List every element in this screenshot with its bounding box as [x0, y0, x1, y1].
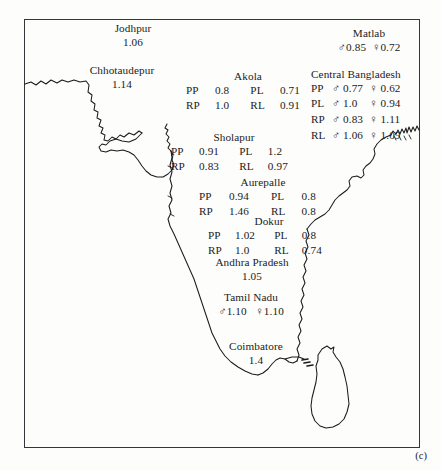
label-jodhpur: Jodhpur 1.06 — [78, 22, 188, 49]
label-chhotaudepur-value: 1.14 — [63, 78, 181, 92]
bangladesh-r3-male: ♂ 0.83 — [332, 113, 364, 127]
label-coimbatore-name: Coimbatore — [197, 340, 315, 354]
matlab-male-value: 0.85 — [346, 41, 366, 53]
sholapur-r2-val2: 0.97 — [268, 160, 297, 174]
label-tamil-nadu: Tamil Nadu ♂1.10 ♀1.10 — [192, 291, 310, 318]
akola-r1-val2: 0.71 — [280, 84, 310, 98]
label-matlab-values: ♂0.85 ♀0.72 — [316, 41, 422, 55]
label-akola-stats: PP 0.8 PL 0.71 RP 1.0 RL 0.91 — [186, 84, 310, 113]
label-coimbatore-value: 1.4 — [197, 354, 315, 368]
akola-r1-val1: 0.8 — [215, 84, 250, 98]
label-akola-name: Akola — [186, 70, 310, 84]
kathiawar-peninsula-outline — [99, 133, 174, 177]
panel-letter: (c) — [415, 450, 427, 461]
aurepalle-r1-val1: 0.94 — [229, 190, 271, 204]
label-andhra-pradesh-name: Andhra Pradesh — [190, 256, 314, 270]
akola-r2-key1: RP — [186, 99, 215, 113]
label-sholapur-stats: PP 0.91 PL 1.2 RP 0.83 RL 0.97 — [171, 145, 297, 174]
label-sholapur: Sholapur PP 0.91 PL 1.2 RP 0.83 RL 0.97 — [171, 131, 297, 174]
bangladesh-r3-female: ♀ 1.11 — [369, 113, 401, 127]
label-jodhpur-value: 1.06 — [78, 36, 188, 50]
label-central-bangladesh-stats: PP ♂ 0.77 ♀ 0.62 PL ♂ 1.0 ♀ 0.94 RP ♂ 0.… — [311, 82, 401, 143]
label-matlab: Matlab ♂0.85 ♀0.72 — [316, 27, 422, 54]
bangladesh-r1-male: ♂ 0.77 — [332, 82, 364, 96]
label-coimbatore: Coimbatore 1.4 — [197, 340, 315, 367]
label-akola: Akola PP 0.8 PL 0.71 RP 1.0 RL 0.91 — [186, 70, 310, 113]
label-dokur-stats: PP 1.02 PL 0.8 RP 1.0 RL 0.74 — [208, 229, 330, 258]
sholapur-r2-key2: RL — [239, 160, 268, 174]
sholapur-r2-val1: 0.83 — [199, 160, 239, 174]
bangladesh-r4-female: ♀ 1.09 — [369, 129, 401, 143]
dokur-r1-key2: PL — [274, 229, 302, 243]
label-tamil-nadu-values: ♂1.10 ♀1.10 — [192, 305, 310, 319]
bangladesh-r4-male: ♂ 1.06 — [332, 129, 364, 143]
figure-panel-c: Jodhpur 1.06 Chhotaudepur 1.14 Akola PP … — [0, 0, 441, 471]
sri-lanka-outline — [311, 346, 349, 428]
male-symbol-icon: ♂ — [338, 41, 347, 53]
aurepalle-r1-key1: PP — [199, 190, 229, 204]
label-andhra-pradesh: Andhra Pradesh 1.05 — [190, 256, 314, 283]
label-chhotaudepur: Chhotaudepur 1.14 — [63, 64, 181, 91]
aurepalle-r1-key2: PL — [271, 190, 302, 204]
male-symbol-icon: ♂ — [218, 305, 227, 317]
aurepalle-r1-val2: 0.8 — [302, 190, 327, 204]
bangladesh-r1-female: ♀ 0.62 — [369, 82, 401, 96]
label-dokur: Dokur PP 1.02 PL 0.8 RP 1.0 RL 0.74 — [208, 215, 330, 258]
dokur-r1-key1: PP — [208, 229, 235, 243]
bangladesh-r2-female: ♀ 0.94 — [369, 97, 401, 111]
sholapur-r1-key1: PP — [171, 145, 199, 159]
label-sholapur-name: Sholapur — [171, 131, 297, 145]
akola-r1-key1: PP — [186, 84, 215, 98]
label-jodhpur-name: Jodhpur — [78, 22, 188, 36]
label-central-bangladesh: Central Bangladesh PP ♂ 0.77 ♀ 0.62 PL ♂… — [311, 68, 401, 142]
matlab-female-value: 0.72 — [380, 41, 400, 53]
label-aurepalle-name: Aurepalle — [199, 176, 327, 190]
akola-r1-key2: PL — [250, 84, 280, 98]
female-symbol-icon: ♀ — [255, 305, 264, 317]
tamil-nadu-female-value: 1.10 — [264, 305, 284, 317]
akola-r2-val1: 1.0 — [215, 99, 250, 113]
label-chhotaudepur-name: Chhotaudepur — [63, 64, 181, 78]
sholapur-r1-val1: 0.91 — [199, 145, 239, 159]
tamil-nadu-male-value: 1.10 — [227, 305, 247, 317]
dokur-r1-val2: 0.8 — [302, 229, 330, 243]
label-dokur-name: Dokur — [208, 215, 330, 229]
bangladesh-r2-male: ♂ 1.0 — [332, 97, 364, 111]
sholapur-r1-val2: 1.2 — [268, 145, 297, 159]
sholapur-r2-key1: RP — [171, 160, 199, 174]
dokur-r1-val1: 1.02 — [235, 229, 274, 243]
akola-r2-val2: 0.91 — [280, 99, 310, 113]
label-andhra-pradesh-value: 1.05 — [190, 270, 314, 284]
sholapur-r1-key2: PL — [239, 145, 268, 159]
bangladesh-r4-key: RL — [311, 129, 326, 143]
bangladesh-r1-key: PP — [311, 82, 326, 96]
label-aurepalle: Aurepalle PP 0.94 PL 0.8 RP 1.46 RL 0.8 — [199, 176, 327, 219]
bangladesh-r2-key: PL — [311, 97, 326, 111]
label-central-bangladesh-name: Central Bangladesh — [311, 68, 401, 82]
label-tamil-nadu-name: Tamil Nadu — [192, 291, 310, 305]
bangladesh-r3-key: RP — [311, 113, 326, 127]
akola-r2-key2: RL — [250, 99, 280, 113]
label-matlab-name: Matlab — [316, 27, 422, 41]
